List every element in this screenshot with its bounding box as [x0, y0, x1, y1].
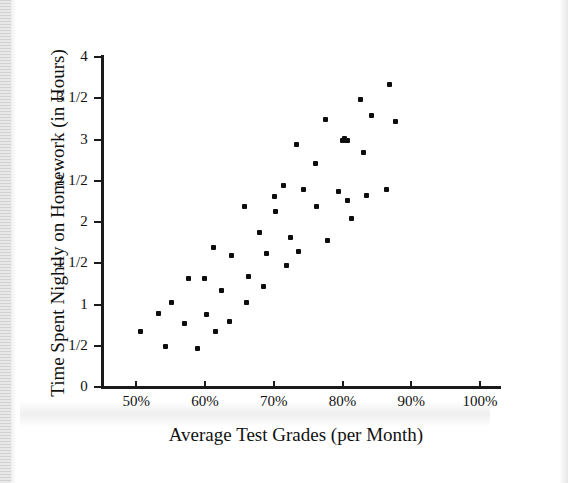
data-point [138, 329, 143, 334]
x-axis-tick-label: 90% [381, 393, 441, 409]
data-point [242, 204, 247, 209]
y-axis-tick-mark [94, 56, 102, 58]
y-axis-tick-mark [94, 97, 102, 99]
data-point [219, 288, 224, 293]
data-point [314, 204, 319, 209]
y-axis-title: Time Spent Nightly on Homework (in Hours… [47, 33, 69, 413]
data-point [156, 311, 161, 316]
data-point [227, 319, 232, 324]
data-point [361, 150, 366, 155]
data-point [336, 189, 341, 194]
data-point [301, 187, 306, 192]
data-point [364, 193, 369, 198]
data-point [384, 187, 389, 192]
data-point [182, 321, 187, 326]
data-point [340, 138, 350, 143]
data-point [369, 113, 374, 118]
x-axis-tick-label: 70% [244, 393, 304, 409]
data-point [213, 329, 218, 334]
data-point [273, 209, 278, 214]
data-point [325, 238, 330, 243]
plot-area [102, 57, 480, 387]
y-axis-tick-mark [94, 304, 102, 306]
data-point [358, 97, 363, 102]
data-point [163, 344, 168, 349]
data-point [284, 263, 289, 268]
data-point [261, 284, 266, 289]
data-point [195, 346, 200, 351]
data-point [202, 276, 207, 281]
y-axis-tick-mark [94, 180, 102, 182]
data-point [313, 161, 318, 166]
data-point [186, 276, 191, 281]
data-point [294, 142, 299, 147]
data-point [393, 119, 398, 124]
x-axis-title: Average Test Grades (per Month) [86, 424, 506, 446]
data-point [211, 245, 216, 250]
y-axis-tick-mark [94, 221, 102, 223]
y-axis-tick-mark [94, 345, 102, 347]
scatter-chart: 43 1/232 1/221 1/211/20 50%60%70%80%90%1… [0, 0, 568, 483]
data-point [272, 194, 277, 199]
x-axis-tick-label: 50% [106, 393, 166, 409]
data-point [204, 312, 209, 317]
data-point [345, 198, 350, 203]
data-point [244, 300, 249, 305]
scatter-plot-page: 43 1/232 1/221 1/211/20 50%60%70%80%90%1… [0, 0, 568, 483]
data-point [281, 183, 286, 188]
x-axis-tick-label: 80% [313, 393, 373, 409]
data-point [229, 253, 234, 258]
data-point [296, 249, 301, 254]
data-point [288, 235, 293, 240]
data-point [387, 82, 392, 87]
data-point [257, 230, 262, 235]
y-axis-tick-mark [94, 262, 102, 264]
y-axis-tick-mark [94, 386, 102, 388]
data-point [264, 251, 269, 256]
x-axis-tick-label: 100% [450, 393, 510, 409]
x-axis-tick-label: 60% [175, 393, 235, 409]
y-axis-tick-mark [94, 139, 102, 141]
data-point [169, 300, 174, 305]
data-point [323, 117, 328, 122]
data-point [349, 216, 354, 221]
data-point [246, 274, 251, 279]
